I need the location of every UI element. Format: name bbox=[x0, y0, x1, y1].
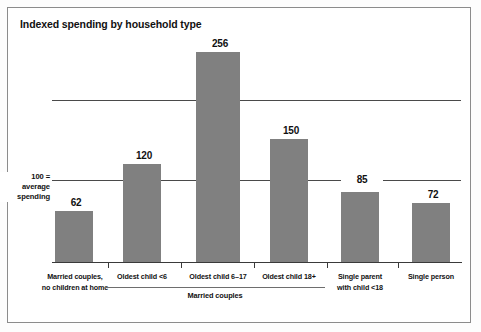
page-title: Indexed spending by household type bbox=[20, 18, 202, 30]
axis-note-line-3: spending bbox=[0, 192, 50, 202]
axis-tick bbox=[327, 263, 328, 268]
category-label-single-person: Single person bbox=[386, 271, 476, 282]
axis-note-line-1: 100 = bbox=[0, 172, 50, 182]
axis-baseline-note: 100 = average spending bbox=[0, 172, 50, 202]
group-bracket-label: Married couples bbox=[105, 291, 325, 300]
bar-value-label: 72 bbox=[412, 189, 454, 200]
axis-tick bbox=[108, 263, 109, 268]
bar-value-label: 256 bbox=[196, 38, 244, 49]
axis-tick bbox=[181, 263, 182, 268]
gridline-200 bbox=[52, 100, 461, 101]
bar-single-parent-child-under-18 bbox=[341, 192, 379, 262]
category-label-line-1: Single person bbox=[386, 271, 476, 282]
bar-value-label: 120 bbox=[123, 150, 165, 161]
axis-note-line-2: average bbox=[0, 182, 50, 192]
x-axis-line bbox=[52, 262, 462, 263]
bar-value-label: 62 bbox=[55, 197, 97, 208]
group-bracket-line bbox=[105, 287, 325, 288]
axis-tick bbox=[254, 263, 255, 268]
bar-oldest-child-6-17 bbox=[196, 52, 240, 262]
bar-single-person bbox=[412, 203, 450, 262]
bar-value-label: 150 bbox=[270, 125, 312, 136]
category-label-line-2: with child <18 bbox=[315, 282, 405, 293]
bar-married-no-children bbox=[55, 211, 93, 262]
bar-oldest-child-18-plus bbox=[270, 139, 308, 262]
chart-figure: Indexed spending by household type 100 =… bbox=[0, 0, 481, 332]
gridline-100 bbox=[52, 180, 461, 181]
bar-value-label: 85 bbox=[341, 174, 383, 185]
bar-oldest-child-under-6 bbox=[123, 164, 161, 262]
axis-tick bbox=[398, 263, 399, 268]
